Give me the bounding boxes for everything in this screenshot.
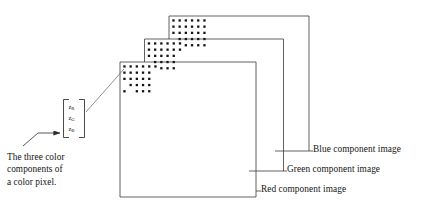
blue-component-plane-outline xyxy=(169,16,309,151)
green-component-plane-outline xyxy=(145,39,284,171)
pixel-vector-subscript-g: G xyxy=(71,117,75,122)
pixel-vector-component-g: zG xyxy=(69,114,75,122)
pixel-vector-leader-line xyxy=(86,69,124,112)
rgb-component-images-figure: zR zG zB Blue component image Green comp… xyxy=(0,0,437,214)
dot-grids xyxy=(123,19,205,92)
pixel-vector-subscript-b: B xyxy=(71,128,74,133)
blue-component-image-label: Blue component image xyxy=(313,144,401,156)
blue-plane-dot-grid xyxy=(172,19,205,46)
red-component-image-label: Red component image xyxy=(261,184,346,196)
red-component-plane-outline xyxy=(120,62,256,197)
red-plane-dot-grid xyxy=(123,65,156,92)
green-plane-dot-grid xyxy=(148,42,181,69)
caption-arrow xyxy=(23,133,60,146)
pixel-vector-component-r: zR xyxy=(69,103,75,111)
pixel-vector-subscript-r: R xyxy=(71,106,74,111)
pixel-vector-component-b: zB xyxy=(69,125,75,133)
caption-line-1: The three color xyxy=(7,151,127,163)
caption-line-3: a color pixel. xyxy=(7,176,127,188)
green-component-image-label: Green component image xyxy=(287,164,380,176)
three-color-components-caption: The three color components of a color pi… xyxy=(7,151,127,188)
caption-line-2: components of xyxy=(7,163,127,175)
